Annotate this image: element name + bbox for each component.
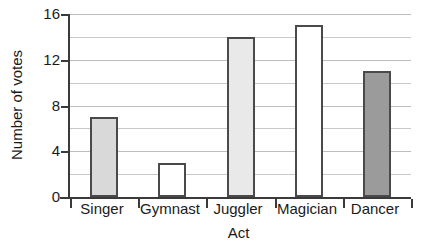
bars-layer (70, 14, 411, 197)
y-axis-tick-labels: 0481216 (28, 0, 60, 252)
bar-magician (295, 25, 323, 197)
x-axis-tick-label: Singer (68, 199, 136, 219)
bar-gymnast (158, 163, 186, 197)
y-axis-tick (61, 14, 70, 16)
bar-dancer (363, 71, 391, 197)
y-axis-tick (61, 60, 70, 62)
y-axis-tick-label: 16 (28, 6, 60, 21)
bar-juggler (227, 37, 255, 197)
plot-area (68, 14, 411, 197)
y-axis-tick-label: 4 (28, 143, 60, 158)
y-axis-tick (61, 106, 70, 108)
y-axis-tick-label: 0 (28, 189, 60, 204)
y-axis-title: Number of votes (8, 5, 26, 205)
y-axis-tick-label: 8 (28, 98, 60, 113)
x-axis-tick-label: Juggler (204, 199, 272, 219)
x-axis-tick-label: Dancer (341, 199, 409, 219)
x-axis-tick-label: Magician (273, 199, 341, 219)
x-axis-tick (411, 199, 413, 208)
bar-singer (90, 117, 118, 197)
y-axis-tick (61, 151, 70, 153)
y-axis-tick-label: 12 (28, 52, 60, 67)
x-axis-title: Act (68, 224, 409, 242)
bar-chart: Number of votes 0481216 SingerGymnastJug… (0, 0, 425, 252)
x-axis-tick-labels: SingerGymnastJugglerMagicianDancer (68, 199, 409, 221)
x-axis-tick-label: Gymnast (136, 199, 204, 219)
